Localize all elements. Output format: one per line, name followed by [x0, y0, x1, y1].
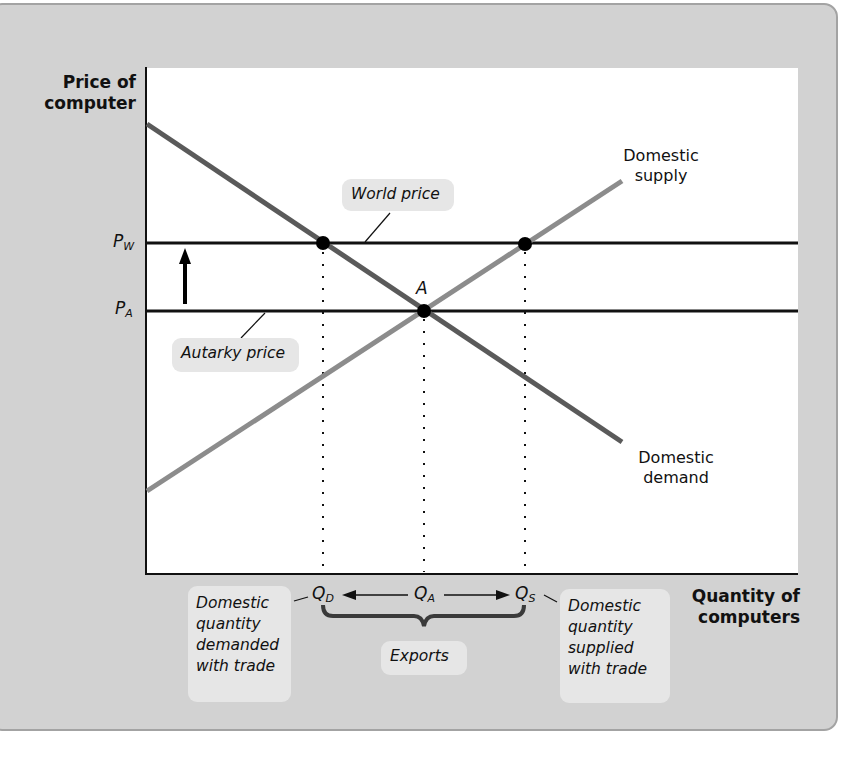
qs-desc-line1: Domestic [568, 596, 662, 617]
qs-leader [544, 595, 557, 602]
point-a-label: A [416, 278, 428, 298]
pa-sub: A [125, 307, 133, 320]
demand-world-price-point [316, 236, 330, 250]
qs-main: Q [515, 583, 528, 603]
supply-label-line1: Domestic [612, 146, 710, 166]
qd-leader [294, 597, 308, 601]
supply-world-price-point [518, 237, 532, 251]
y-axis-title-line2: computer [40, 93, 136, 114]
qd-desc-line2: quantity [196, 614, 283, 635]
y-axis-title-line1: Price of [40, 72, 136, 93]
exports-bubble: Exports [381, 641, 467, 675]
qs-desc-line3: supplied [568, 638, 662, 659]
qa-sub: A [427, 592, 435, 605]
qs-sub: S [528, 592, 535, 605]
x-axis-title-line1: Quantity of [680, 586, 800, 607]
supply-curve [147, 181, 622, 491]
qd-desc-line1: Domestic [196, 593, 283, 614]
demand-label-line2: demand [626, 468, 726, 488]
qa-main: Q [414, 583, 427, 603]
qs-label: QS [515, 583, 535, 609]
qd-main: Q [312, 583, 325, 603]
qd-description-bubble: Domestic quantity demanded with trade [188, 586, 291, 702]
qd-label: QD [312, 583, 334, 609]
y-axis-title: Price of computer [40, 72, 136, 114]
demand-label-line1: Domestic [626, 448, 726, 468]
x-axis-title: Quantity of computers [680, 586, 800, 628]
qd-sub: D [325, 592, 333, 605]
world-price-leader [365, 213, 390, 242]
world-price-bubble: World price [342, 179, 454, 211]
pw-sub: W [123, 240, 134, 253]
x-axis-title-line2: computers [680, 607, 800, 628]
qs-desc-line2: quantity [568, 617, 662, 638]
pw-main: P [113, 231, 123, 251]
pa-label: PA [115, 298, 133, 324]
qs-desc-line4: with trade [568, 659, 662, 680]
pa-main: P [115, 298, 125, 318]
price-rise-arrow-icon [179, 248, 191, 264]
left-arrow-icon [342, 590, 356, 600]
autarky-price-bubble: Autarky price [172, 338, 299, 372]
supply-label-line2: supply [612, 166, 710, 186]
qs-description-bubble: Domestic quantity supplied with trade [560, 589, 670, 703]
qa-label: QA [414, 583, 435, 609]
qd-desc-line4: with trade [196, 656, 283, 677]
right-arrow-icon [496, 590, 510, 600]
point-a [417, 304, 431, 318]
autarky-price-leader [241, 313, 265, 338]
demand-curve [147, 124, 622, 442]
pw-label: PW [113, 231, 134, 257]
demand-label: Domestic demand [626, 448, 726, 488]
supply-label: Domestic supply [612, 146, 710, 186]
qd-desc-line3: demanded [196, 635, 283, 656]
